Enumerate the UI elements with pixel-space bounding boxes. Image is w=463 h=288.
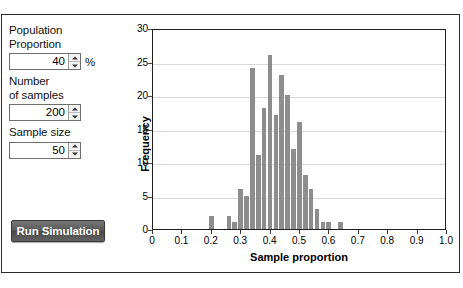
- sample-size-input[interactable]: 50: [10, 143, 68, 158]
- x-axis-tick-label: 0.8: [380, 235, 394, 246]
- population-proportion-label-line2: Proportion: [9, 38, 61, 50]
- y-axis-tick-label: 15: [137, 125, 148, 135]
- x-axis-tick-label: 0.5: [292, 235, 306, 246]
- x-axis-tick-mark: [387, 230, 388, 234]
- x-axis-tick-mark: [152, 230, 153, 234]
- run-simulation-button[interactable]: Run Simulation: [11, 220, 105, 242]
- y-axis-tick-mark: [148, 230, 152, 231]
- spin-up-icon[interactable]: [69, 105, 80, 112]
- population-proportion-spin-buttons[interactable]: [68, 54, 80, 69]
- x-axis-tick-mark: [240, 230, 241, 234]
- plot-area: [152, 29, 446, 230]
- x-axis-tick-mark: [328, 230, 329, 234]
- population-proportion-input[interactable]: 40: [10, 54, 68, 69]
- number-of-samples-label-line2: of samples: [9, 89, 64, 101]
- histogram-bar: [303, 175, 308, 229]
- x-axis-tick-mark: [358, 230, 359, 234]
- sample-size-row: 50: [9, 142, 114, 159]
- histogram-bar: [291, 149, 296, 229]
- number-of-samples-input[interactable]: 200: [10, 105, 68, 120]
- x-axis-tick-label: 1.0: [439, 235, 453, 246]
- histogram-bar: [209, 216, 214, 229]
- histogram-bar: [309, 189, 314, 229]
- histogram-bar: [238, 189, 243, 229]
- histogram-bar: [244, 196, 249, 230]
- histogram-bar: [315, 209, 320, 229]
- x-axis-tick-mark: [181, 230, 182, 234]
- number-of-samples-stepper[interactable]: 200: [9, 104, 81, 121]
- histogram-bar: [256, 155, 261, 229]
- x-axis-tick-label: 0.3: [233, 235, 247, 246]
- x-axis-label: Sample proportion: [152, 251, 446, 263]
- histogram-bar: [285, 95, 290, 229]
- x-axis-tick-mark: [270, 230, 271, 234]
- spin-down-icon[interactable]: [69, 61, 80, 69]
- histogram-bar: [279, 75, 284, 229]
- sample-size-spin-buttons[interactable]: [68, 143, 80, 158]
- histogram-bar: [262, 108, 267, 229]
- histogram-bar: [338, 222, 343, 229]
- histogram-bar: [227, 216, 232, 229]
- simulation-applet: Population Proportion 40 % Number of sam…: [1, 14, 460, 273]
- histogram-bars: [153, 30, 445, 229]
- y-axis-tick-mark: [148, 163, 152, 164]
- histogram-bar: [268, 55, 273, 229]
- spin-down-icon[interactable]: [69, 150, 80, 158]
- histogram-chart: Frequency 051015202530 00.10.20.30.40.50…: [114, 15, 459, 272]
- sample-size-group: Sample size 50: [9, 126, 114, 159]
- population-proportion-row: 40 %: [9, 53, 114, 70]
- percent-unit-label: %: [85, 56, 95, 68]
- histogram-bar: [297, 122, 302, 229]
- number-of-samples-spin-buttons[interactable]: [68, 105, 80, 120]
- y-axis-tick-mark: [148, 197, 152, 198]
- spin-up-icon[interactable]: [69, 143, 80, 150]
- x-axis-tick-mark: [211, 230, 212, 234]
- number-of-samples-label-line1: Number: [9, 75, 49, 87]
- y-axis-tick-mark: [148, 29, 152, 30]
- control-panel: Population Proportion 40 % Number of sam…: [2, 15, 114, 272]
- y-axis-tick-label: 20: [137, 91, 148, 101]
- x-axis-tick-label: 0.4: [263, 235, 277, 246]
- histogram-bar: [250, 68, 255, 229]
- x-axis-tick-label: 0.1: [174, 235, 188, 246]
- spin-down-icon[interactable]: [69, 112, 80, 120]
- population-proportion-group: Population Proportion 40 %: [9, 24, 114, 70]
- number-of-samples-label: Number of samples: [9, 75, 114, 102]
- population-proportion-label-line1: Population: [9, 24, 62, 36]
- x-axis-tick-label: 0: [149, 235, 155, 246]
- y-axis-tick-label: 10: [137, 158, 148, 168]
- histogram-bar: [321, 222, 326, 229]
- x-axis-tick-mark: [417, 230, 418, 234]
- sample-size-stepper[interactable]: 50: [9, 142, 81, 159]
- histogram-bar: [274, 115, 279, 229]
- spin-up-icon[interactable]: [69, 54, 80, 61]
- x-axis-tick-mark: [299, 230, 300, 234]
- y-axis-tick-label: 30: [137, 24, 148, 34]
- y-axis-tick-mark: [148, 130, 152, 131]
- population-proportion-label: Population Proportion: [9, 24, 114, 51]
- number-of-samples-row: 200: [9, 104, 114, 121]
- y-axis-tick-mark: [148, 96, 152, 97]
- y-axis-tick-label: 25: [137, 58, 148, 68]
- x-axis-tick-label: 0.7: [351, 235, 365, 246]
- histogram-bar: [232, 222, 237, 229]
- population-proportion-stepper[interactable]: 40: [9, 53, 81, 70]
- x-axis-tick-label: 0.2: [204, 235, 218, 246]
- y-axis-ticks: 051015202530: [126, 15, 148, 272]
- x-axis-tick-mark: [446, 230, 447, 234]
- x-axis-tick-label: 0.6: [321, 235, 335, 246]
- histogram-bar: [326, 222, 331, 229]
- sample-size-label: Sample size: [9, 126, 114, 140]
- number-of-samples-group: Number of samples 200: [9, 75, 114, 121]
- y-axis-tick-mark: [148, 63, 152, 64]
- x-axis-tick-label: 0.9: [410, 235, 424, 246]
- x-axis-ticks: 00.10.20.30.40.50.60.70.80.91.0: [152, 230, 446, 235]
